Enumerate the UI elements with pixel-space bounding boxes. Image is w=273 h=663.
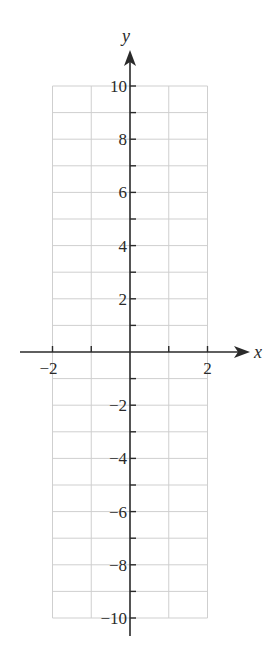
- y-tick-label: −10: [100, 609, 127, 628]
- y-tick-label: −2: [109, 396, 127, 415]
- axes: [20, 50, 250, 636]
- y-axis-label: y: [120, 26, 130, 46]
- y-tick-label: −8: [109, 556, 127, 575]
- y-tick-label: 2: [119, 290, 128, 309]
- x-tick-label: −2: [39, 359, 57, 378]
- y-tick-label: −6: [109, 503, 127, 522]
- coordinate-grid: 108642−2−4−6−8−10−22 x y: [0, 0, 273, 663]
- y-tick-label: 10: [110, 77, 127, 96]
- y-tick-label: 8: [119, 130, 128, 149]
- y-tick-label: 4: [119, 237, 128, 256]
- x-axis-label: x: [253, 342, 262, 362]
- x-tick-label: 2: [203, 359, 212, 378]
- y-tick-label: 6: [119, 183, 128, 202]
- y-tick-label: −4: [109, 449, 128, 468]
